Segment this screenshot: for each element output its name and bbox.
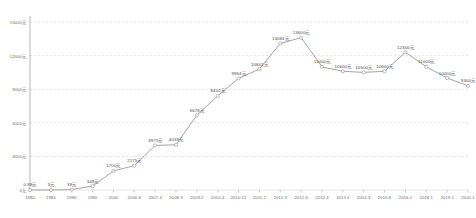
data-point-marker[interactable]: [49, 188, 52, 191]
y-axis-tick-label: 15000元: [0, 19, 26, 25]
data-point-marker[interactable]: [216, 94, 219, 97]
x-axis-tick-label: 2007.4: [148, 195, 161, 200]
data-point-value-label: 3元: [48, 181, 55, 187]
data-point-value-label: 10000元: [439, 70, 456, 76]
data-point-marker[interactable]: [174, 143, 177, 146]
data-point-marker[interactable]: [91, 185, 94, 188]
data-point-marker[interactable]: [383, 70, 386, 73]
data-point-value-label: 0.88元: [23, 181, 36, 187]
data-point-value-label: 9300元: [461, 77, 475, 83]
data-point-value-label: 6678元: [190, 107, 204, 113]
data-point-marker[interactable]: [341, 70, 344, 73]
data-point-value-label: 4039元: [169, 136, 183, 142]
x-axis-tick-label: 2018.1: [420, 195, 433, 200]
data-point-value-label: 11000元: [418, 58, 434, 64]
data-point-marker[interactable]: [320, 65, 323, 68]
data-point-value-label: 12300元: [397, 44, 414, 50]
data-point-marker[interactable]: [425, 65, 428, 68]
x-axis-tick-label: 1980: [25, 195, 35, 200]
data-point-marker[interactable]: [466, 84, 469, 87]
y-axis-tick-label: 6000元: [0, 120, 26, 126]
x-axis-tick-label: 2009.2: [190, 195, 203, 200]
data-point-value-label: 10500元: [355, 64, 372, 70]
data-point-marker[interactable]: [195, 114, 198, 117]
x-axis-tick-label: 2020.1: [461, 195, 474, 200]
data-point-value-label: 38元: [67, 181, 76, 187]
data-point-value-label: 9964元: [231, 70, 245, 76]
data-point-marker[interactable]: [279, 42, 282, 45]
x-axis-tick-label: 2012.4: [315, 195, 328, 200]
y-axis-tick-label: 12000元: [0, 53, 26, 59]
x-axis-tick-label: 1984: [46, 195, 56, 200]
x-axis-tick-label: 2000: [109, 195, 119, 200]
x-axis-tick-label: 2013.4: [336, 195, 349, 200]
data-point-value-label: 3975元: [148, 137, 162, 143]
data-point-value-label: 10600元: [376, 63, 393, 69]
x-axis-tick-label: 1990: [88, 195, 98, 200]
data-point-marker[interactable]: [300, 36, 303, 39]
data-point-value-label: 2175元: [127, 157, 141, 163]
data-point-marker[interactable]: [446, 76, 449, 79]
data-point-marker[interactable]: [133, 164, 136, 167]
y-axis-tick-label: 3000元: [0, 153, 26, 159]
data-point-value-label: 10600元: [334, 63, 351, 69]
x-axis-tick-label: 2006.8: [128, 195, 141, 200]
x-axis-tick-label: 2010.12: [231, 195, 247, 200]
data-point-value-label: 11000元: [314, 58, 330, 64]
data-point-marker[interactable]: [362, 71, 365, 74]
x-axis-tick-label: 2014.3: [357, 195, 370, 200]
x-axis-tick-label: 2016.1: [399, 195, 412, 200]
data-point-value-label: 348元: [87, 178, 99, 184]
y-axis-tick-label: 9000元: [0, 86, 26, 92]
data-point-marker[interactable]: [70, 188, 73, 191]
y-axis-tick-label: 0元: [0, 187, 26, 193]
data-point-marker[interactable]: [154, 144, 157, 147]
x-axis-tick-label: 2015.8: [378, 195, 391, 200]
x-axis-tick-label: 2019.1: [440, 195, 453, 200]
price-line-chart: 15000元12000元9000元6000元3000元0元 1980198419…: [0, 0, 476, 218]
data-point-marker[interactable]: [404, 51, 407, 54]
data-point-marker[interactable]: [112, 169, 115, 172]
data-point-value-label: 1700元: [106, 162, 120, 168]
x-axis-tick-label: 2008.3: [169, 195, 182, 200]
data-point-value-label: 13600元: [293, 29, 310, 35]
data-point-marker[interactable]: [28, 188, 31, 191]
data-point-marker[interactable]: [258, 67, 261, 70]
x-axis-tick-label: 1986: [67, 195, 77, 200]
x-axis-tick-label: 2010.4: [211, 195, 224, 200]
data-point-value-label: 13084元: [272, 35, 289, 41]
x-axis-tick-label: 2011.2: [253, 195, 266, 200]
x-axis-tick-label: 2011.3: [274, 195, 287, 200]
data-point-value-label: 8402元: [211, 87, 225, 93]
x-axis-tick-label: 2012.6: [294, 195, 307, 200]
data-point-marker[interactable]: [237, 77, 240, 80]
data-point-value-label: 10802元: [251, 61, 268, 67]
series-line: [30, 38, 468, 190]
